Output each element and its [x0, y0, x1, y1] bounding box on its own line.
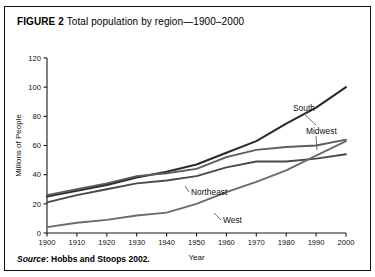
y-tick-label: 0: [37, 229, 41, 238]
x-tick-label: 1980: [278, 238, 295, 247]
series-label-midwest: Midwest: [306, 126, 337, 136]
x-tick-label: 1900: [39, 238, 56, 247]
x-axis-title: Year: [188, 253, 205, 262]
x-tick-label: 1910: [68, 238, 85, 247]
source-note: Source: Hobbs and Stoops 2002.: [17, 254, 150, 264]
y-tick-label: 40: [33, 170, 41, 179]
x-tick-label: 1990: [308, 238, 325, 247]
leader-line-northeast: [185, 186, 189, 192]
leader-line-south: [303, 113, 316, 125]
series-line-west: [47, 141, 346, 227]
x-tick-label: 1930: [128, 238, 145, 247]
source-citation: : Hobbs and Stoops 2002.: [46, 254, 150, 264]
y-tick-label: 60: [33, 141, 41, 150]
x-tick-label: 2000: [338, 238, 355, 247]
x-tick-label: 1950: [188, 238, 205, 247]
line-chart-svg: 020406080100120 190019101920193019401950…: [5, 7, 372, 272]
series-label-west: West: [223, 215, 243, 225]
x-tick-label: 1970: [248, 238, 265, 247]
y-tick-label: 120: [28, 54, 41, 63]
leader-line-west: [214, 213, 221, 220]
y-tick-label: 20: [33, 200, 41, 209]
y-tick-label: 80: [33, 112, 41, 121]
chart-axes: 020406080100120 190019101920193019401950…: [28, 54, 354, 247]
y-tick-label: 100: [28, 83, 41, 92]
x-axis-ticks: 1900191019201930194019501960197019801990…: [39, 233, 355, 247]
y-axis-title: Millions of People: [14, 114, 23, 177]
leader-line-midwest: [316, 136, 317, 150]
series-label-south: South: [293, 103, 315, 113]
x-tick-label: 1920: [98, 238, 115, 247]
figure-container: FIGURE 2 Total population by region—1900…: [4, 6, 371, 271]
y-axis-ticks: 020406080100120: [28, 54, 47, 238]
chart-plot-area: 020406080100120 190019101920193019401950…: [5, 7, 372, 272]
source-label: Source: [17, 254, 46, 264]
series-label-northeast: Northeast: [191, 187, 228, 197]
x-tick-label: 1960: [218, 238, 235, 247]
x-tick-label: 1940: [158, 238, 175, 247]
